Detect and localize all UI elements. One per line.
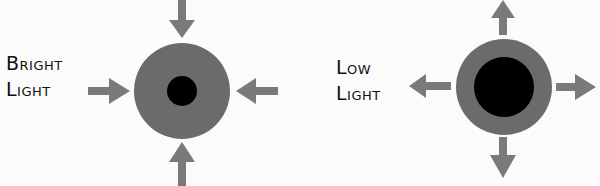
arrow-up-icon <box>169 142 195 186</box>
arrow-up-icon <box>491 0 515 35</box>
arrow-right-icon <box>556 74 596 100</box>
pupil-diagram <box>0 0 600 186</box>
arrow-left-icon <box>409 74 451 98</box>
arrow-left-icon <box>236 78 278 104</box>
arrow-right-icon <box>88 78 130 104</box>
constricted-pupil-icon <box>167 76 197 106</box>
dilated-pupil-icon <box>474 57 534 117</box>
arrow-down-icon <box>490 137 516 178</box>
arrow-down-icon <box>169 0 195 38</box>
low-light-eye <box>456 39 552 135</box>
bright-light-eye <box>134 43 230 139</box>
